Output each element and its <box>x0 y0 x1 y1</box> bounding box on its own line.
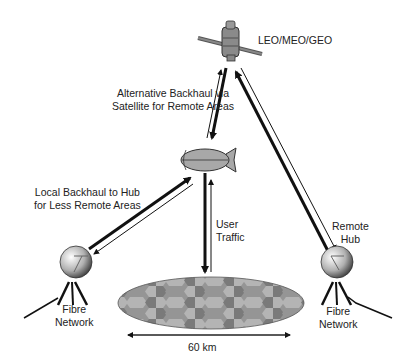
fibre-right-line2: Network <box>319 318 358 331</box>
satellite-icon <box>198 21 262 61</box>
coverage-area <box>110 270 310 340</box>
coverage-width-label: 60 km <box>188 341 217 354</box>
user-traffic-arrows <box>205 173 211 272</box>
user-traffic-line1: User <box>216 218 245 231</box>
remote-hub-line1: Remote <box>332 220 369 233</box>
network-diagram: LEO/MEO/GEO Alternative Backhaul via Sat… <box>0 0 413 358</box>
fibre-right-line1: Fibre <box>319 305 358 318</box>
satellite-orbit-label: LEO/MEO/GEO <box>258 34 332 47</box>
remote-backhaul-arrows <box>236 68 336 255</box>
fibre-left-line2: Network <box>55 316 94 329</box>
fibre-left-line1: Fibre <box>55 303 94 316</box>
user-traffic-label: User Traffic <box>216 218 245 244</box>
remote-hub-line2: Hub <box>332 233 369 246</box>
alt-backhaul-line1: Alternative Backhaul via <box>112 87 234 100</box>
alt-backhaul-line2: Satellite for Remote Areas <box>112 100 234 113</box>
user-traffic-line2: Traffic <box>216 231 245 244</box>
fibre-network-right-label: Fibre Network <box>319 305 358 331</box>
local-backhaul-line2: for Less Remote Areas <box>34 199 141 212</box>
alt-backhaul-label: Alternative Backhaul via Satellite for R… <box>112 87 234 113</box>
remote-hub-label: Remote Hub <box>332 220 369 246</box>
airship-icon <box>181 148 236 172</box>
local-backhaul-label: Local Backhaul to Hub for Less Remote Ar… <box>34 186 141 212</box>
local-backhaul-line1: Local Backhaul to Hub <box>34 186 141 199</box>
fibre-network-left-label: Fibre Network <box>55 303 94 329</box>
